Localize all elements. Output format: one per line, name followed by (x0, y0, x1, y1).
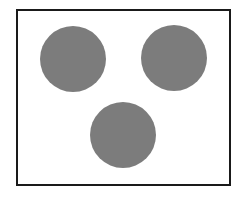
circle-top-right (141, 25, 207, 91)
circle-top-left (40, 26, 106, 92)
circle-bottom (90, 102, 156, 168)
